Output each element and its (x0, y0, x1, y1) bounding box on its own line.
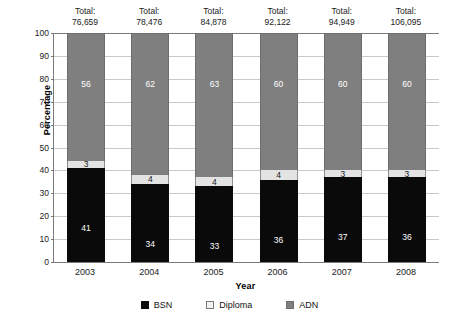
bar-segment-label: 56 (81, 80, 90, 89)
total-prefix: Total: (53, 6, 117, 17)
total-label: Total: 78,476 (117, 6, 181, 33)
bar-segment-adn[interactable]: 63 (195, 33, 233, 177)
y-tick-label: 0 (44, 257, 49, 267)
bar-segment-label: 60 (338, 80, 347, 89)
bar-segment-bsn[interactable]: 37 (324, 177, 362, 262)
x-axis-title: Year (53, 281, 438, 291)
bar-segment-label: 60 (274, 80, 283, 89)
bar-segment-label: 37 (338, 233, 347, 242)
bar-segment-label: 62 (146, 80, 155, 89)
y-tick-label: 70 (40, 97, 49, 107)
bar-segment-label: 4 (212, 178, 217, 187)
bar-segment-adn[interactable]: 60 (388, 33, 426, 170)
bar-segment-adn[interactable]: 60 (324, 33, 362, 170)
bar-segment-label: 60 (402, 80, 411, 89)
x-tick-label: 2007 (310, 267, 374, 277)
y-tick-label: 60 (40, 120, 49, 130)
x-axis-tick-labels: 2003 2004 2005 2006 2007 2008 (53, 267, 438, 277)
stacked-bar: 56 3 41 (67, 33, 105, 262)
y-tick-label: 10 (40, 234, 49, 244)
total-prefix: Total: (310, 6, 374, 17)
y-tick-label: 30 (40, 188, 49, 198)
bar-segment-label: 33 (210, 242, 219, 251)
total-label: Total: 106,095 (374, 6, 438, 33)
y-tick-label: 40 (40, 165, 49, 175)
bar-segment-label: 36 (402, 233, 411, 242)
gridline-baseline: 0 (54, 262, 439, 263)
bar-segment-diploma[interactable]: 4 (195, 177, 233, 186)
bar-segment-adn[interactable]: 56 (67, 33, 105, 161)
total-value: 78,476 (117, 17, 181, 28)
totals-row: Total: 76,659 Total: 78,476 Total: 84,87… (53, 6, 438, 33)
legend-item-adn[interactable]: ADN (286, 300, 318, 310)
bar-segment-label: 41 (81, 224, 90, 233)
total-value: 106,095 (374, 17, 438, 28)
stacked-bar: 60 3 37 (324, 33, 362, 262)
legend-item-diploma[interactable]: Diploma (206, 300, 252, 310)
bar-slot-2003: 56 3 41 (54, 33, 118, 262)
bar-slot-2005: 63 4 33 (182, 33, 246, 262)
stacked-bar: 60 3 36 (388, 33, 426, 262)
bar-slot-2006: 60 4 36 (247, 33, 311, 262)
bar-segment-adn[interactable]: 62 (131, 33, 169, 175)
legend-label: Diploma (219, 300, 252, 310)
bar-slot-2008: 60 3 36 (375, 33, 439, 262)
bar-segment-diploma[interactable]: 4 (131, 175, 169, 184)
total-prefix: Total: (117, 6, 181, 17)
total-prefix: Total: (374, 6, 438, 17)
total-value: 94,949 (310, 17, 374, 28)
legend-label: BSN (154, 300, 173, 310)
y-tick-label: 90 (40, 51, 49, 61)
y-tick-label: 80 (40, 74, 49, 84)
y-tick-label: 50 (40, 143, 49, 153)
chart-legend: BSN Diploma ADN (0, 300, 459, 310)
total-prefix: Total: (246, 6, 310, 17)
bar-segment-diploma[interactable]: 3 (67, 161, 105, 168)
legend-swatch-icon (141, 301, 149, 309)
legend-label: ADN (299, 300, 318, 310)
bar-segment-bsn[interactable]: 33 (195, 186, 233, 262)
stacked-bar: 63 4 33 (195, 33, 233, 262)
legend-item-bsn[interactable]: BSN (141, 300, 173, 310)
total-label: Total: 94,949 (310, 6, 374, 33)
total-value: 76,659 (53, 17, 117, 28)
plot-area: 100 90 80 70 60 50 40 30 (53, 33, 439, 263)
bar-slot-2007: 60 3 37 (311, 33, 375, 262)
total-label: Total: 92,122 (246, 6, 310, 33)
x-tick-label: 2005 (181, 267, 245, 277)
bar-segment-bsn[interactable]: 36 (260, 180, 298, 262)
total-label: Total: 84,878 (181, 6, 245, 33)
stacked-bar: 60 4 36 (260, 33, 298, 262)
bar-slot-2004: 62 4 34 (118, 33, 182, 262)
total-value: 84,878 (181, 17, 245, 28)
bar-segment-bsn[interactable]: 41 (67, 168, 105, 262)
bar-segment-diploma[interactable]: 3 (324, 170, 362, 177)
bars-layer: 56 3 41 62 4 (54, 33, 439, 262)
bar-segment-bsn[interactable]: 36 (388, 177, 426, 262)
total-label: Total: 76,659 (53, 6, 117, 33)
bar-segment-label: 63 (210, 80, 219, 89)
bar-segment-label: 34 (146, 240, 155, 249)
bar-segment-diploma[interactable]: 3 (388, 170, 426, 177)
stacked-bar: 62 4 34 (131, 33, 169, 262)
total-value: 92,122 (246, 17, 310, 28)
total-prefix: Total: (181, 6, 245, 17)
stacked-bar-chart: Percentage Total: 76,659 Total: 78,476 T… (0, 0, 459, 326)
bar-segment-label: 36 (274, 236, 283, 245)
legend-swatch-icon (286, 301, 294, 309)
legend-swatch-icon (206, 301, 214, 309)
bar-segment-diploma[interactable]: 4 (260, 170, 298, 179)
y-tick-label: 100 (35, 28, 49, 38)
bar-segment-label: 4 (148, 175, 153, 184)
bar-segment-adn[interactable]: 60 (260, 33, 298, 170)
y-tick-label: 20 (40, 211, 49, 221)
x-tick-label: 2006 (246, 267, 310, 277)
x-tick-label: 2004 (117, 267, 181, 277)
bar-segment-label: 4 (276, 171, 281, 180)
x-tick-label: 2008 (374, 267, 438, 277)
bar-segment-bsn[interactable]: 34 (131, 184, 169, 262)
x-tick-label: 2003 (53, 267, 117, 277)
